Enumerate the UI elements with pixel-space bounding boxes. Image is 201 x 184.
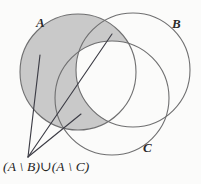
set-label-a: A — [36, 16, 45, 29]
shaded-region-group — [20, 14, 136, 130]
set-label-c: C — [143, 141, 152, 154]
shaded-region-a-minus-c — [20, 14, 136, 130]
set-expression-label: (A \ B)∪(A \ C) — [3, 160, 90, 175]
venn-diagram-figure: A B C (A \ B)∪(A \ C) — [0, 0, 201, 184]
venn-canvas — [0, 0, 201, 184]
set-label-b: B — [172, 17, 181, 30]
